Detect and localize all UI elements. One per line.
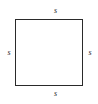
side-label-top: s (0, 7, 98, 15)
side-label-left: s (5, 49, 13, 57)
side-label-bottom: s (0, 90, 98, 98)
geometry-figure-canvas: s s s s (0, 0, 98, 104)
square-shape (15, 19, 83, 86)
side-label-right: s (86, 49, 94, 57)
